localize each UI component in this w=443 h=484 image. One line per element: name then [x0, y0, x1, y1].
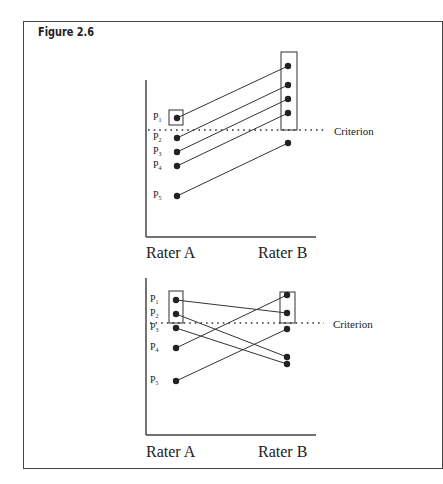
top-label-p2: P2	[153, 131, 162, 143]
bottom-rater-a-box	[169, 291, 183, 323]
top-label-p1: P1	[153, 111, 162, 123]
bottom-label-p4: P4	[150, 341, 159, 353]
top-label-p3: P3	[153, 145, 162, 157]
bottom-label-p2: P2	[150, 307, 159, 319]
bottom-label-p3: P3	[150, 321, 159, 333]
bottom-criterion-label: Criterion	[333, 318, 373, 330]
top-label-p4: P4	[153, 159, 162, 171]
bottom-panel: Criterion P1 P2 P3 P4 P5 Rater A Rater B	[146, 278, 373, 460]
top-panel: Criterion P1 P2 P3 P4 P5 Rater A Rater B	[146, 52, 374, 261]
bottom-label-p1: P1	[150, 293, 159, 305]
bottom-x-label-rater-b: Rater B	[258, 443, 307, 460]
bottom-label-p5: P5	[150, 374, 159, 386]
top-x-label-rater-a: Rater A	[146, 244, 196, 261]
bottom-x-label-rater-a: Rater A	[146, 443, 196, 460]
top-label-p5: P5	[153, 189, 162, 201]
top-x-label-rater-b: Rater B	[258, 244, 307, 261]
top-criterion-label: Criterion	[334, 125, 374, 137]
